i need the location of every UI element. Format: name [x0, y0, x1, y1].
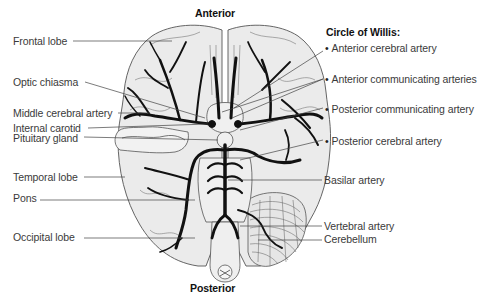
- label-optic-chiasma: Optic chiasma: [13, 76, 78, 88]
- label-pons: Pons: [13, 192, 37, 204]
- label-vertebral-artery: Vertebral artery: [324, 220, 394, 232]
- label-cerebellum: Cerebellum: [324, 233, 377, 245]
- label-posterior-communicating-artery: Posterior communicating artery: [325, 103, 474, 115]
- label-frontal-lobe: Frontal lobe: [13, 35, 67, 47]
- label-pituitary-gland: Pituitary gland: [13, 132, 78, 144]
- label-temporal-lobe: Temporal lobe: [13, 171, 78, 183]
- label-occipital-lobe: Occipital lobe: [13, 231, 75, 243]
- label-anterior-cerebral-artery: Anterior cerebral artery: [325, 42, 437, 54]
- circle-of-willis-heading: Circle of Willis:: [326, 26, 400, 38]
- cerebellum: [248, 193, 306, 267]
- label-posterior-cerebral-artery: Posterior cerebral artery: [325, 135, 442, 147]
- circle-of-willis-diagram: Anterior Posterior Frontal lobe Optic ch…: [0, 0, 493, 295]
- anterior-title: Anterior: [195, 7, 235, 19]
- posterior-title: Posterior: [190, 282, 235, 294]
- label-anterior-communicating-arteries: Anterior communicating arteries: [325, 73, 477, 85]
- temporal-lobe-fold: [115, 127, 188, 153]
- label-basilar-artery: Basilar artery: [324, 174, 384, 186]
- label-middle-cerebral-artery: Middle cerebral artery: [13, 107, 112, 119]
